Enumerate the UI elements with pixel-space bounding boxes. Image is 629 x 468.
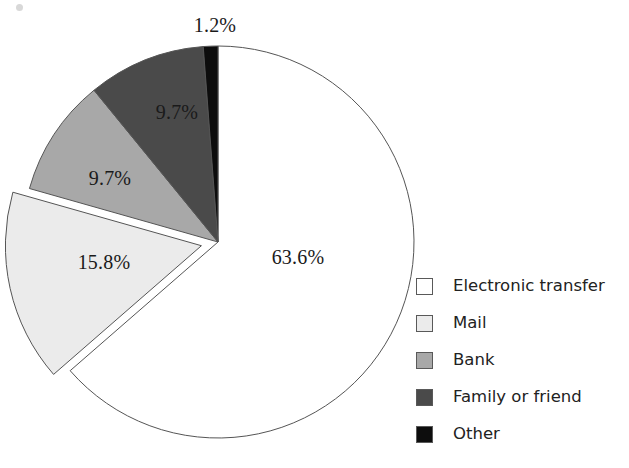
legend-item-bank[interactable]: Bank [416,342,626,379]
pie-slice-group [5,46,414,438]
legend-swatch-icon [416,278,433,295]
legend-swatch-icon [416,426,433,443]
legend-item-label: Other [453,426,500,443]
legend-swatch-icon [416,352,433,369]
legend-item-label: Electronic transfer [453,278,605,295]
legend-item-other[interactable]: Other [416,416,626,453]
legend-swatch-icon [416,389,433,406]
legend-item-family-or-friend[interactable]: Family or friend [416,379,626,416]
pie-chart-figure: 63.6%15.8%9.7%9.7%1.2% Electronic transf… [0,0,629,468]
legend-item-label: Family or friend [453,389,582,406]
legend-item-mail[interactable]: Mail [416,305,626,342]
legend-swatch-icon [416,315,433,332]
legend-item-electronic-transfer[interactable]: Electronic transfer [416,268,626,305]
legend-item-label: Bank [453,352,494,369]
chart-legend: Electronic transferMailBankFamily or fri… [416,268,626,453]
legend-item-label: Mail [453,315,487,332]
